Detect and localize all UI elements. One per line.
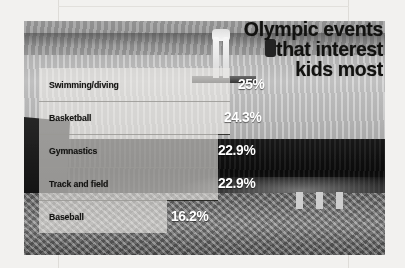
bar-label: Gymnastics: [49, 145, 97, 156]
bar-label: Track and field: [49, 178, 108, 189]
chart-title-line-1: Olympic events: [197, 19, 383, 39]
pool-post-3: [336, 192, 343, 209]
bar-label: Swimming/diving: [49, 79, 119, 90]
pool-post-1: [296, 192, 303, 209]
page-margin-rule-top: [58, 6, 349, 7]
bar-value: 22.9%: [218, 141, 255, 158]
bar-label: Baseball: [49, 211, 84, 222]
bar-label: Basketball: [49, 112, 91, 123]
bar-value: 22.9%: [218, 174, 255, 191]
bar-value: 25%: [238, 75, 265, 92]
infographic-figure: Olympic events that interest kids most S…: [0, 0, 405, 268]
bar-value: 24.3%: [224, 108, 261, 125]
pool-post-2: [316, 192, 323, 209]
chart-title-line-2: that interest: [197, 39, 383, 59]
bar-value: 16.2%: [171, 207, 208, 224]
